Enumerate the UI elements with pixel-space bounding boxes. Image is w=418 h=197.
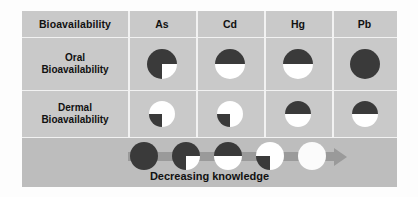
column-header-as: As xyxy=(155,18,169,30)
quarter-dark-pie-icon xyxy=(217,101,243,127)
legend-empty-pie-icon xyxy=(298,142,326,170)
gridline-vertical xyxy=(332,11,334,137)
legend-quarter-dark-pie-icon xyxy=(256,142,284,170)
full-dark-pie-icon xyxy=(350,49,380,79)
cell-oral-pb xyxy=(332,38,397,90)
row-label-oral-line2: Bioavailability xyxy=(41,64,108,75)
cell-dermal-as xyxy=(128,91,196,137)
cell-dermal-cd xyxy=(196,91,264,137)
half-dark-pie-icon xyxy=(352,101,378,127)
matrix-row-oral: Oral Bioavailability xyxy=(22,38,397,90)
matrix-header-row: Bioavailability As Cd Hg Pb xyxy=(22,11,397,37)
matrix-row-dermal: Dermal Bioavailability xyxy=(22,91,397,137)
bioavailability-matrix: Bioavailability As Cd Hg Pb Oral Bioavai… xyxy=(22,11,397,187)
corner-label: Bioavailability xyxy=(39,18,111,30)
row-label-oral-line1: Oral xyxy=(65,52,85,63)
gridline-horizontal xyxy=(22,137,397,138)
gridline-vertical xyxy=(264,11,266,137)
gridline-horizontal xyxy=(22,90,397,91)
legend-caption: Decreasing knowledge xyxy=(22,170,397,182)
bioavailability-figure: Bioavailability As Cd Hg Pb Oral Bioavai… xyxy=(0,0,418,197)
gridline-vertical xyxy=(196,11,198,137)
header-cell-as: As xyxy=(128,11,196,37)
gridline-vertical xyxy=(128,11,130,137)
three-quarter-dark-pie-icon xyxy=(147,49,177,79)
quarter-dark-pie-icon xyxy=(149,101,175,127)
cell-dermal-hg xyxy=(264,91,332,137)
row-label-dermal-line2: Bioavailability xyxy=(41,114,108,125)
cell-oral-as xyxy=(128,38,196,90)
gridline-horizontal xyxy=(22,37,397,38)
header-cell-pb: Pb xyxy=(332,11,397,37)
column-header-pb: Pb xyxy=(358,18,372,30)
header-cell-corner: Bioavailability xyxy=(22,11,128,37)
legend-three-quarter-dark-pie-icon xyxy=(172,142,200,170)
column-header-cd: Cd xyxy=(223,18,237,30)
header-cell-hg: Hg xyxy=(264,11,332,37)
column-header-hg: Hg xyxy=(291,18,305,30)
cell-oral-hg xyxy=(264,38,332,90)
row-label-dermal-line1: Dermal xyxy=(58,102,92,113)
half-dark-pie-icon xyxy=(285,101,311,127)
header-cell-cd: Cd xyxy=(196,11,264,37)
row-label-dermal: Dermal Bioavailability xyxy=(22,91,128,137)
legend-half-dark-pie-icon xyxy=(214,142,242,170)
row-label-oral: Oral Bioavailability xyxy=(22,38,128,90)
half-dark-pie-icon xyxy=(283,49,313,79)
cell-dermal-pb xyxy=(332,91,397,137)
arrow-right-icon xyxy=(334,148,347,166)
half-dark-pie-icon xyxy=(215,49,245,79)
legend-row: Decreasing knowledge xyxy=(22,138,397,187)
legend-full-dark-pie-icon xyxy=(130,142,158,170)
cell-oral-cd xyxy=(196,38,264,90)
